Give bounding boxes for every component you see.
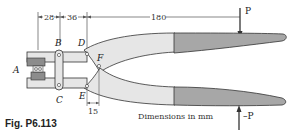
pin-F — [97, 64, 100, 67]
label-E: E — [78, 91, 86, 101]
dim-E-to-F: 15 — [88, 107, 98, 116]
pin-D — [85, 52, 88, 55]
upper-handle-grip — [174, 33, 286, 53]
label-A: A — [12, 65, 20, 75]
dim-AB: 28 — [44, 13, 54, 22]
upper-jaw — [27, 58, 45, 66]
label-B: B — [54, 38, 62, 48]
force-P-label: P — [245, 6, 251, 16]
label-D: D — [77, 38, 85, 48]
lower-handle-grip — [174, 87, 286, 106]
label-F: F — [96, 53, 104, 63]
lower-handle — [84, 68, 175, 105]
force-minus-P-label: –P — [243, 111, 254, 121]
figure-caption: Fig. P6.113 — [5, 118, 57, 129]
force-minus-P-arrow — [237, 105, 242, 130]
lower-jaw — [31, 72, 45, 80]
units-note: Dimensions in mm — [138, 112, 214, 121]
label-C: C — [56, 95, 63, 105]
dim-BD: 36 — [67, 13, 77, 22]
pin-E — [85, 84, 88, 87]
dim-D-to-P: 180 — [151, 13, 166, 22]
